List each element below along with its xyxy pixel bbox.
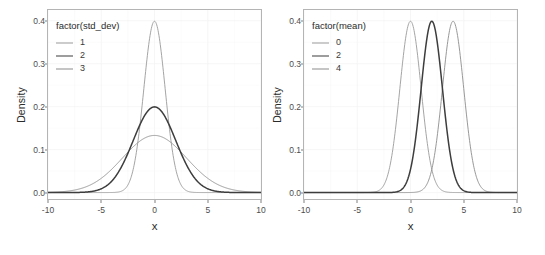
x-tick-label: -5 [97,205,105,215]
legend-item-label: 0 [336,38,341,47]
legend-title-right: factor(mean) [312,20,366,31]
x-axis-ticks-left: -10-50510 [0,0,272,255]
legend-left: factor(std_dev) 123 [56,20,119,75]
x-tick-mark [261,200,262,203]
legend-items-left: 123 [56,36,119,75]
legend-item: 4 [312,62,366,75]
legend-right: factor(mean) 024 [312,20,366,75]
legend-item: 2 [56,49,119,62]
legend-key-line-icon [56,64,73,74]
x-tick-mark [304,200,305,203]
legend-key-line-icon [312,38,329,48]
x-tick-label: 10 [512,205,521,215]
panel-std-dev: Density 0.00.10.20.30.4 -10-50510 x fact… [0,0,272,255]
x-tick-mark [207,200,208,203]
legend-item: 2 [312,49,366,62]
x-axis-title-left: x [47,220,262,232]
x-tick-label: 5 [205,205,210,215]
figure-root: Density 0.00.10.20.30.4 -10-50510 x fact… [0,0,545,255]
legend-item: 1 [56,36,119,49]
x-axis-title-right: x [303,220,518,232]
legend-item-label: 1 [80,38,85,47]
x-tick-label: -10 [42,205,54,215]
x-tick-mark [410,200,411,203]
legend-item-label: 2 [336,51,341,60]
legend-item-label: 3 [80,64,85,73]
x-tick-mark [101,200,102,203]
legend-item: 0 [312,36,366,49]
x-tick-mark [517,200,518,203]
plot-figure: Density 0.00.10.20.30.4 -10-50510 x fact… [0,0,545,255]
x-tick-mark [463,200,464,203]
x-tick-mark [357,200,358,203]
x-tick-label: -10 [298,205,310,215]
panel-mean: Density 0.00.10.20.30.4 -10-50510 x fact… [272,0,544,255]
legend-item-label: 2 [80,51,85,60]
legend-item-label: 4 [336,64,341,73]
x-tick-mark [48,200,49,203]
legend-key-line-icon [312,64,329,74]
legend-items-right: 024 [312,36,366,75]
x-tick-mark [154,200,155,203]
x-tick-label: 0 [408,205,413,215]
legend-key-line-icon [56,38,73,48]
legend-item: 3 [56,62,119,75]
legend-key-line-icon [56,51,73,61]
x-tick-label: 5 [461,205,466,215]
x-tick-label: 10 [256,205,265,215]
legend-title-left: factor(std_dev) [56,20,119,31]
x-tick-label: 0 [152,205,157,215]
legend-key-line-icon [312,51,329,61]
x-tick-label: -5 [353,205,361,215]
